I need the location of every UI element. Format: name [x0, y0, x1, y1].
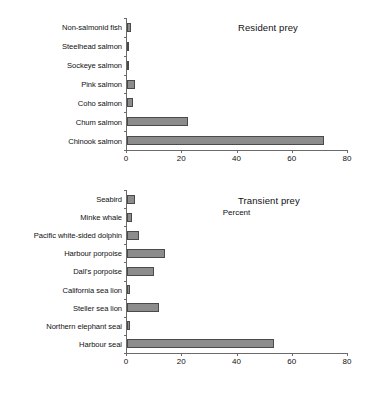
x-axis-tick [181, 353, 182, 356]
x-axis-tick [292, 150, 293, 153]
bar-row: Steelhead salmon [127, 37, 347, 56]
x-axis-ticks-resident: 020406080 [126, 150, 347, 166]
x-axis-label-transient: Percent [126, 208, 347, 217]
bar-row: Seabird [127, 190, 347, 208]
y-axis-tick [124, 131, 127, 132]
y-axis-tick [124, 262, 127, 263]
bar-resident-5 [127, 117, 188, 126]
category-label: Coho salmon [78, 98, 122, 107]
x-axis-tick-label: 20 [177, 154, 186, 163]
y-axis-tick [124, 37, 127, 38]
bar-row: Steller sea lion [127, 299, 347, 317]
x-axis-tick-label: 60 [287, 357, 296, 366]
x-axis-tick [181, 150, 182, 153]
figure-container: Resident prey Non-salmonid fishSteelhead… [0, 0, 374, 400]
chart-panel-transient-prey: Transient prey SeabirdMinke whalePacific… [0, 182, 374, 400]
y-axis-tick [124, 244, 127, 245]
plot-area-resident-prey: Non-salmonid fishSteelhead salmonSockeye… [126, 18, 347, 150]
y-axis-tick [124, 18, 127, 19]
x-axis-tick [347, 150, 348, 153]
x-axis-tick [126, 150, 127, 153]
x-axis-tick-label: 80 [343, 357, 352, 366]
bar-resident-4 [127, 98, 133, 107]
bar-row: Coho salmon [127, 93, 347, 112]
bar-resident-1 [127, 42, 129, 51]
category-label: Northern elephant seal [46, 321, 122, 330]
category-label: Seabird [96, 195, 122, 204]
bar-transient-3 [127, 249, 165, 258]
bar-row: Non-salmonid fish [127, 18, 347, 37]
y-axis-tick [124, 299, 127, 300]
category-label: Pacific white-sided dolphin [34, 231, 122, 240]
category-label: Chinook salmon [68, 136, 122, 145]
bar-transient-2 [127, 231, 139, 240]
bar-row: Chum salmon [127, 112, 347, 131]
x-axis-tick [347, 353, 348, 356]
bar-transient-4 [127, 267, 154, 276]
bar-resident-6 [127, 136, 324, 145]
y-axis-tick [124, 112, 127, 113]
category-label: Steller sea lion [73, 303, 122, 312]
bar-transient-6 [127, 303, 159, 312]
bar-row: Harbour seal [127, 335, 347, 353]
y-axis-tick [124, 226, 127, 227]
y-axis-tick [124, 317, 127, 318]
category-label: Minke whale [80, 213, 122, 222]
category-label: Steelhead salmon [62, 42, 122, 51]
bar-transient-5 [127, 285, 130, 294]
y-axis-tick [124, 335, 127, 336]
category-label: Chum salmon [76, 117, 122, 126]
chart-panel-resident-prey: Resident prey Non-salmonid fishSteelhead… [0, 6, 374, 176]
bar-row: California sea lion [127, 281, 347, 299]
x-axis-ticks-transient: 020406080 [126, 353, 347, 369]
y-axis-tick [124, 75, 127, 76]
x-axis-tick [126, 353, 127, 356]
y-axis-tick [124, 190, 127, 191]
x-axis-tick [237, 150, 238, 153]
y-axis-tick [124, 56, 127, 57]
x-axis-tick-label: 0 [124, 154, 128, 163]
x-axis-tick-label: 0 [124, 357, 128, 366]
bar-transient-0 [127, 195, 135, 204]
bar-row: Northern elephant seal [127, 317, 347, 335]
bar-row: Sockeye salmon [127, 56, 347, 75]
bar-rows-resident: Non-salmonid fishSteelhead salmonSockeye… [127, 18, 347, 150]
x-axis-tick-label: 60 [287, 154, 296, 163]
category-label: Dall's porpoise [73, 267, 122, 276]
bar-transient-8 [127, 339, 274, 348]
x-axis-tick [237, 353, 238, 356]
category-label: Harbour porpoise [64, 249, 122, 258]
x-axis-tick-label: 40 [232, 357, 241, 366]
bar-row: Dall's porpoise [127, 262, 347, 280]
category-label: Harbour seal [79, 339, 122, 348]
bar-row: Pacific white-sided dolphin [127, 226, 347, 244]
bar-resident-0 [127, 23, 131, 32]
category-label: Sockeye salmon [67, 61, 122, 70]
bar-resident-2 [127, 61, 129, 70]
category-label: Non-salmonid fish [62, 23, 122, 32]
bar-row: Chinook salmon [127, 131, 347, 150]
bar-resident-3 [127, 80, 135, 89]
x-axis-tick-label: 20 [177, 357, 186, 366]
category-label: California sea lion [63, 285, 122, 294]
x-axis-tick [292, 353, 293, 356]
bar-row: Pink salmon [127, 75, 347, 94]
x-axis-tick-label: 40 [232, 154, 241, 163]
category-label: Pink salmon [81, 80, 122, 89]
bar-transient-7 [127, 321, 130, 330]
y-axis-tick [124, 93, 127, 94]
bar-row: Harbour porpoise [127, 244, 347, 262]
x-axis-tick-label: 80 [343, 154, 352, 163]
y-axis-tick [124, 281, 127, 282]
plot-area-transient-prey: SeabirdMinke whalePacific white-sided do… [126, 190, 347, 353]
